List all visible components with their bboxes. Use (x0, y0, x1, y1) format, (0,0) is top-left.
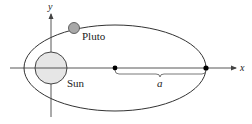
pluto-label: Pluto (82, 30, 106, 42)
semi-major-axis-brace (115, 70, 206, 77)
center-point (113, 66, 118, 71)
pluto-icon (69, 23, 80, 34)
x-axis-label: x (239, 62, 245, 73)
semi-major-axis-label: a (157, 77, 163, 89)
vertex-point (203, 65, 208, 70)
orbit-diagram: y x Pluto Sun a (0, 0, 252, 124)
y-axis-label: y (47, 1, 53, 12)
sun-label: Sun (67, 77, 85, 89)
